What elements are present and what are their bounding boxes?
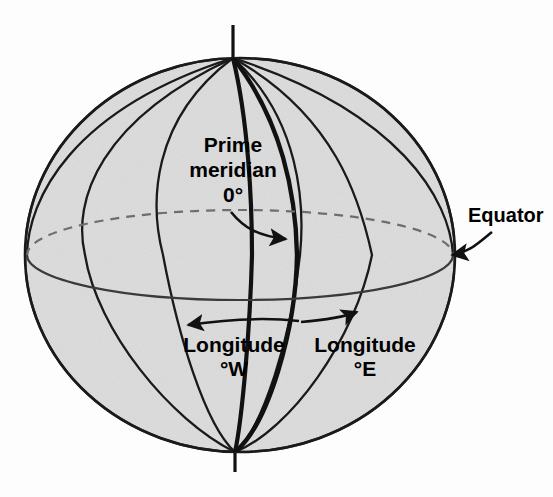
globe-sphere — [25, 58, 455, 452]
figure-canvas: Prime meridian 0° Equator Longitude °W L… — [0, 0, 553, 497]
equator-pointer-curved-arrow-icon — [452, 232, 492, 255]
equator-label: Equator — [468, 204, 544, 226]
prime-meridian-label-line1: Prime — [204, 133, 262, 156]
longitude-east-label-line2: °E — [354, 357, 376, 380]
longitude-east-label-line1: Longitude — [314, 333, 415, 356]
equator-label-text: Equator — [468, 204, 544, 226]
longitude-west-label-line1: Longitude — [183, 333, 284, 356]
globe-diagram: Prime meridian 0° Equator Longitude °W L… — [0, 0, 553, 497]
longitude-west-label-line2: °W — [220, 357, 248, 380]
prime-meridian-label-line3: 0° — [223, 183, 243, 206]
prime-meridian-label-line2: meridian — [189, 158, 277, 181]
